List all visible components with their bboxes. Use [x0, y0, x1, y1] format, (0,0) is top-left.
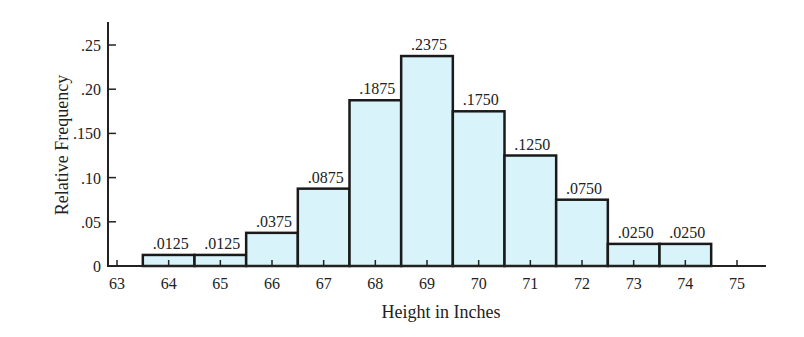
- y-tick-label: .05: [81, 214, 101, 231]
- histogram-bar: [401, 56, 453, 266]
- x-tick-label: 71: [522, 275, 538, 292]
- x-tick-label: 68: [367, 275, 383, 292]
- bar-value-label: .0125: [153, 235, 189, 252]
- bar-value-label: .0875: [308, 169, 344, 186]
- histogram-bar: [350, 100, 402, 266]
- x-tick-label: 70: [471, 275, 487, 292]
- x-tick-label: 65: [212, 275, 228, 292]
- x-tick-label: 74: [677, 275, 693, 292]
- bar-value-label: .2375: [411, 36, 447, 53]
- histogram-bar: [556, 200, 608, 266]
- bar-value-label: .1750: [463, 91, 499, 108]
- x-tick-label: 67: [316, 275, 332, 292]
- y-axis-title: Relative Frequency: [52, 75, 72, 215]
- x-tick-label: 63: [109, 275, 125, 292]
- bar-value-label: .0250: [618, 224, 654, 241]
- x-tick-label: 66: [264, 275, 280, 292]
- y-tick-label: .20: [81, 81, 101, 98]
- histogram-bar: [298, 189, 350, 266]
- histogram-chart: .0125.0125.0375.0875.1875.2375.1750.1250…: [0, 0, 804, 337]
- x-tick-label: 64: [161, 275, 177, 292]
- bar-value-label: .1250: [514, 136, 550, 153]
- histogram-bar: [453, 111, 505, 266]
- x-tick-label: 75: [729, 275, 745, 292]
- y-tick-label: .10: [81, 170, 101, 187]
- x-axis-title: Height in Inches: [382, 302, 501, 322]
- y-tick-label: .25: [81, 37, 101, 54]
- y-tick-label: .150: [73, 125, 101, 142]
- x-tick-label: 72: [574, 275, 590, 292]
- x-tick-label: 69: [419, 275, 435, 292]
- bar-value-label: .0250: [669, 224, 705, 241]
- bar-value-label: .0750: [566, 180, 602, 197]
- bar-value-label: .0125: [204, 235, 240, 252]
- bar-value-label: .0375: [256, 213, 292, 230]
- x-tick-label: 73: [626, 275, 642, 292]
- y-axis-ticks: 0.05.10.150.20.25: [73, 37, 116, 275]
- y-tick-label: 0: [93, 258, 101, 275]
- bar-value-label: .1875: [359, 80, 395, 97]
- histogram-bar: [505, 156, 557, 267]
